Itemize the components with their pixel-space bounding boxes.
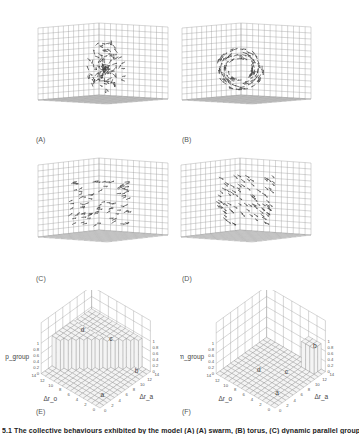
panel-label-c: (C) xyxy=(36,275,46,282)
svg-text:0.4: 0.4 xyxy=(152,357,158,362)
panel-a: (A) xyxy=(0,0,180,145)
svg-text:10: 10 xyxy=(315,382,320,387)
svg-text:12: 12 xyxy=(322,377,327,382)
svg-text:0.8: 0.8 xyxy=(152,345,158,350)
svg-text:8: 8 xyxy=(234,387,237,392)
svg-text:0.4: 0.4 xyxy=(327,357,333,362)
svg-text:1: 1 xyxy=(37,341,40,346)
svg-text:a: a xyxy=(101,391,105,398)
svg-text:0.8: 0.8 xyxy=(327,345,333,350)
panel-label-e: (E) xyxy=(36,408,45,415)
svg-text:14: 14 xyxy=(154,372,159,377)
svg-text:10: 10 xyxy=(223,383,228,388)
panel-b: (B) xyxy=(180,0,359,145)
svg-text:4: 4 xyxy=(118,398,121,403)
svg-text:Δr_a: Δr_a xyxy=(140,393,154,401)
svg-text:2: 2 xyxy=(111,403,114,408)
svg-text:Δr_o: Δr_o xyxy=(218,395,232,403)
svg-text:1: 1 xyxy=(327,339,330,344)
svg-text:0.8: 0.8 xyxy=(33,347,39,352)
panel-label-b: (B) xyxy=(182,136,191,143)
svg-text:6: 6 xyxy=(301,392,304,397)
svg-text:2: 2 xyxy=(259,402,262,407)
svg-text:12: 12 xyxy=(147,377,152,382)
panel-label-a: (A) xyxy=(36,136,45,143)
figure-caption: 5.1 The collective behaviours exhibited … xyxy=(2,427,359,434)
svg-text:d: d xyxy=(81,326,85,333)
panel-f: 0246810121402468101214000.20.20.40.40.60… xyxy=(180,290,359,425)
svg-text:0.2: 0.2 xyxy=(33,365,39,370)
svg-text:4: 4 xyxy=(251,397,254,402)
svg-text:8: 8 xyxy=(59,387,62,392)
svg-text:0.2: 0.2 xyxy=(327,363,333,368)
svg-text:0.6: 0.6 xyxy=(327,351,333,356)
surface-plot-f: 0246810121402468101214000.20.20.40.40.60… xyxy=(180,290,359,425)
svg-text:0.4: 0.4 xyxy=(208,359,214,364)
svg-text:10: 10 xyxy=(48,383,53,388)
svg-text:b: b xyxy=(313,342,317,349)
svg-text:0.8: 0.8 xyxy=(208,347,214,352)
vector-field-d xyxy=(180,145,359,290)
svg-text:6: 6 xyxy=(242,392,245,397)
vector-field-a xyxy=(0,0,180,145)
svg-text:0.4: 0.4 xyxy=(33,359,39,364)
panel-label-f: (F) xyxy=(182,408,191,415)
svg-text:0.6: 0.6 xyxy=(33,353,39,358)
svg-text:0: 0 xyxy=(268,407,271,412)
svg-text:0: 0 xyxy=(37,371,40,376)
svg-text:14: 14 xyxy=(329,372,334,377)
svg-text:6: 6 xyxy=(126,392,129,397)
svg-text:0.6: 0.6 xyxy=(208,353,214,358)
svg-text:2: 2 xyxy=(84,402,87,407)
svg-text:4: 4 xyxy=(76,397,79,402)
svg-text:0.6: 0.6 xyxy=(152,351,158,356)
vector-field-c xyxy=(0,145,180,290)
surface-plot-e: 0246810121402468101214000.20.20.40.40.60… xyxy=(0,290,180,425)
svg-text:0: 0 xyxy=(212,371,215,376)
svg-text:1: 1 xyxy=(212,341,215,346)
panel-e: 0246810121402468101214000.20.20.40.40.60… xyxy=(0,290,180,425)
svg-text:1: 1 xyxy=(152,339,155,344)
svg-text:6: 6 xyxy=(67,392,70,397)
svg-text:8: 8 xyxy=(308,387,311,392)
svg-text:2: 2 xyxy=(286,403,289,408)
svg-text:d: d xyxy=(257,366,261,373)
svg-text:a: a xyxy=(275,389,279,396)
svg-text:0.2: 0.2 xyxy=(152,363,158,368)
svg-text:0: 0 xyxy=(93,407,96,412)
svg-text:8: 8 xyxy=(133,387,136,392)
svg-text:p_group: p_group xyxy=(5,353,29,361)
svg-text:0: 0 xyxy=(104,408,107,413)
svg-text:0.2: 0.2 xyxy=(208,365,214,370)
vector-field-b xyxy=(180,0,359,145)
svg-text:10: 10 xyxy=(140,382,145,387)
panel-d: (D) xyxy=(180,145,359,290)
svg-text:12: 12 xyxy=(40,378,45,383)
svg-text:m_group: m_group xyxy=(180,353,205,361)
svg-text:Δr_a: Δr_a xyxy=(315,393,329,401)
panel-label-d: (D) xyxy=(182,275,192,282)
svg-text:4: 4 xyxy=(293,398,296,403)
svg-text:Δr_o: Δr_o xyxy=(43,395,57,403)
svg-text:b: b xyxy=(135,367,139,374)
svg-text:12: 12 xyxy=(215,378,220,383)
svg-text:0: 0 xyxy=(279,408,282,413)
panel-c: (C) xyxy=(0,145,180,290)
